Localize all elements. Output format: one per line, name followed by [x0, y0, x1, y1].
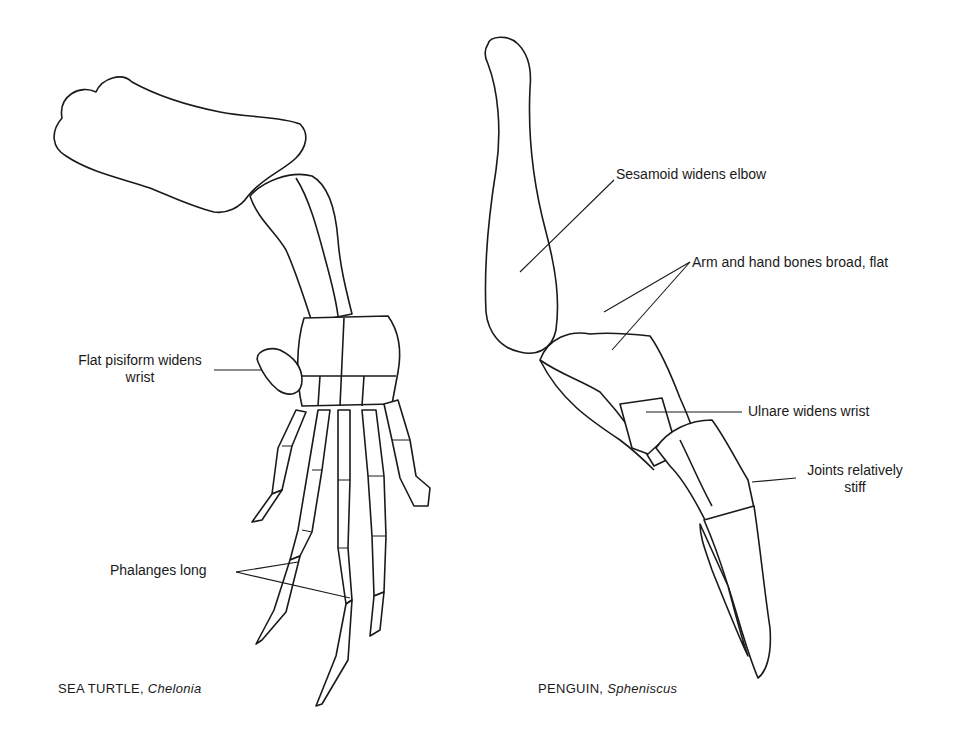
- pisiform-label: Flat pisiform widens wrist: [60, 352, 220, 386]
- penguin-carpometacarpus: [656, 420, 754, 522]
- penguin-phalanx-1: [704, 506, 770, 678]
- turtle-carpals: [298, 316, 400, 406]
- phalanges-label: Phalanges long: [110, 562, 207, 579]
- digit-1: [272, 410, 306, 494]
- penguin-genus: Spheniscus: [607, 681, 677, 696]
- penguin-humerus: [485, 37, 558, 353]
- joints-label-line2: stiff: [790, 479, 920, 496]
- turtle-forearm: [250, 174, 352, 322]
- digit-4: [362, 410, 386, 596]
- penguin-common-name: PENGUIN,: [538, 681, 603, 696]
- digit-5: [384, 400, 430, 506]
- penguin-caption: PENGUIN, Spheniscus: [538, 681, 677, 696]
- arm-hand-bones-label: Arm and hand bones broad, flat: [692, 254, 888, 271]
- sea-turtle-common-name: SEA TURTLE,: [58, 681, 144, 696]
- pisiform: [257, 349, 302, 394]
- pisiform-label-line1: Flat pisiform widens: [60, 352, 220, 369]
- sesamoid-label: Sesamoid widens elbow: [616, 166, 766, 183]
- ulnare-label: Ulnare widens wrist: [748, 403, 869, 420]
- joints-label-line1: Joints relatively: [790, 462, 920, 479]
- joints-label: Joints relatively stiff: [790, 462, 920, 496]
- pisiform-label-line2: wrist: [60, 369, 220, 386]
- sea-turtle-caption: SEA TURTLE, Chelonia: [58, 681, 202, 696]
- digit-3: [338, 410, 352, 604]
- sea-turtle-genus: Chelonia: [148, 681, 202, 696]
